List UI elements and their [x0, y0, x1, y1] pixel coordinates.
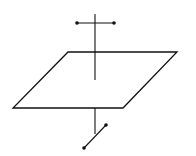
plane-with-perpendicular-line-diagram — [0, 0, 196, 156]
lower-segment-endpoint-bottom — [82, 146, 86, 150]
upper-segment-endpoint-left — [75, 21, 79, 25]
upper-segment-endpoint-right — [112, 21, 116, 25]
lower-segment-endpoint-top — [104, 123, 108, 127]
